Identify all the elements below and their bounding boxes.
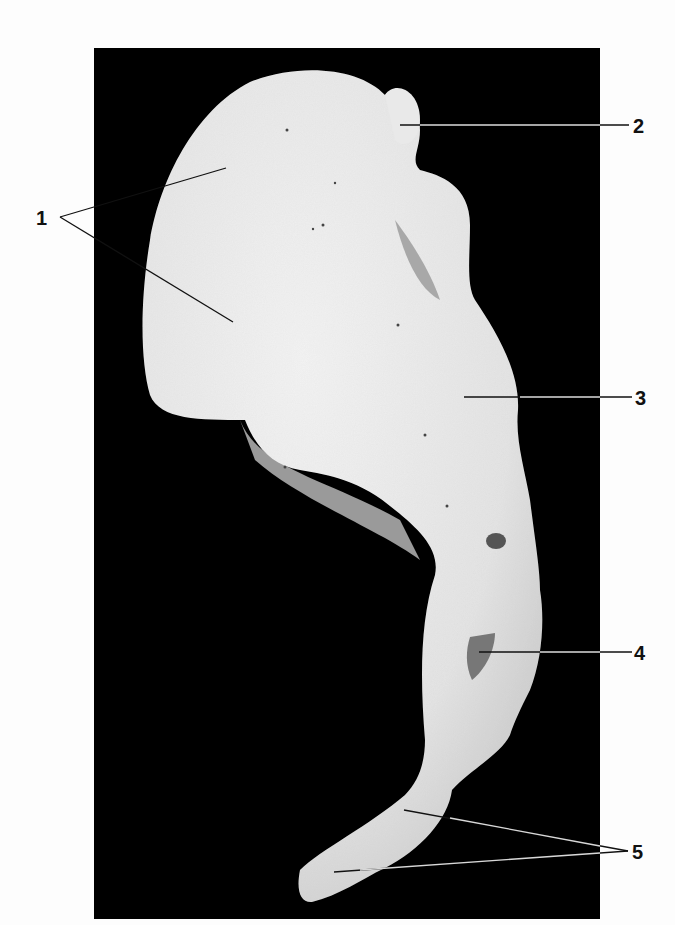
label-3: 3: [635, 388, 646, 408]
label-2: 2: [633, 116, 644, 136]
bone-body: [143, 70, 543, 902]
label-1: 1: [36, 208, 47, 228]
foramen-upper: [486, 533, 506, 549]
bone-illustration: [0, 0, 675, 925]
label-4: 4: [634, 643, 645, 663]
label-5: 5: [632, 842, 643, 862]
